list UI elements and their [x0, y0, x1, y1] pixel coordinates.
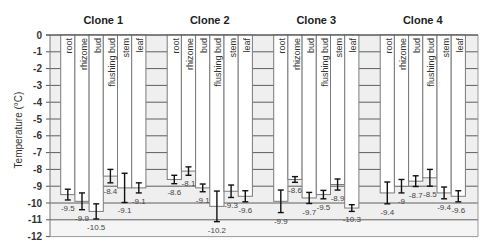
- value-label: -8.1: [182, 179, 196, 188]
- value-label: -8.4: [104, 187, 118, 196]
- category-label: root: [384, 38, 394, 54]
- y-tick-label: -5: [33, 114, 42, 125]
- value-label: -9.4: [437, 203, 451, 212]
- value-label: -9.6: [238, 206, 252, 215]
- clone-title: Clone 1: [83, 14, 123, 26]
- category-label: rhizome: [79, 38, 89, 70]
- y-tick-label: -9: [33, 181, 42, 192]
- bar-root: [380, 35, 394, 193]
- y-tick-label: -4: [33, 97, 42, 108]
- value-label: -9.3: [224, 201, 238, 210]
- value-label: -9.1: [118, 206, 132, 215]
- value-label: -10.5: [87, 223, 106, 232]
- clone-title: Clone 2: [190, 14, 230, 26]
- value-label: -9.9: [274, 217, 288, 226]
- category-label: leaf: [455, 38, 465, 53]
- y-tick-label: -12: [28, 231, 43, 242]
- y-tick-label: -2: [33, 63, 42, 74]
- y-axis-title: Temperature (°C): [13, 92, 24, 169]
- y-tick-label: -11: [28, 214, 42, 225]
- value-label: -8.9: [331, 194, 345, 203]
- bar-bud: [89, 35, 103, 211]
- category-label: rhizome: [398, 38, 408, 70]
- bar-leaf: [345, 35, 359, 208]
- category-label: bud: [306, 38, 316, 53]
- bar-root: [274, 35, 288, 201]
- bar-bud: [196, 35, 210, 188]
- clone-title: Clone 4: [403, 14, 444, 26]
- value-label: -10.2: [208, 226, 227, 235]
- value-label: -8.7: [409, 191, 423, 200]
- value-label: -9.7: [302, 208, 316, 217]
- value-label: -9.1: [132, 197, 146, 206]
- value-label: -9.9: [75, 214, 89, 223]
- value-label: -9.5: [61, 204, 75, 213]
- value-label: -9.6: [451, 206, 465, 215]
- y-tick-label: -1: [33, 46, 42, 57]
- category-label: bud: [199, 38, 209, 53]
- category-label: flushing bud: [107, 38, 117, 87]
- y-tick-label: -8: [33, 164, 42, 175]
- bar-chart: -9.5-9.9-10.5-8.4-9.1-9.1-8.6-8.1-9.1-10…: [0, 0, 497, 252]
- category-label: leaf: [242, 38, 252, 53]
- category-label: rhizome: [185, 38, 195, 70]
- bar-root: [61, 35, 75, 195]
- bar-leaf: [132, 35, 146, 188]
- value-label: -8.6: [167, 188, 181, 197]
- category-label: root: [171, 38, 181, 54]
- category-label: flushing bud: [320, 38, 330, 87]
- clone-titles: Clone 1Clone 2Clone 3Clone 4: [83, 14, 443, 26]
- bar-root: [167, 35, 181, 179]
- y-tick-label: -10: [28, 198, 43, 209]
- category-label: root: [64, 38, 74, 54]
- category-label: bud: [93, 38, 103, 53]
- category-label: leaf: [348, 38, 358, 53]
- category-label: rhizome: [292, 38, 302, 70]
- value-label: -9.1: [196, 196, 210, 205]
- bar-leaf: [238, 35, 252, 196]
- value-label: -9: [398, 197, 406, 206]
- category-label: flushing bud: [426, 38, 436, 87]
- bar-leaf: [451, 35, 465, 196]
- category-label: root: [277, 38, 287, 54]
- category-label: stem: [228, 38, 238, 58]
- category-label: leaf: [135, 38, 145, 53]
- bar-stem: [437, 35, 451, 193]
- bar-bud: [302, 35, 316, 198]
- value-label: -9.4: [380, 208, 394, 217]
- y-tick-label: -7: [33, 147, 42, 158]
- value-label: -10.3: [343, 215, 362, 224]
- y-tick-label: -6: [33, 130, 42, 141]
- category-label: flushing bud: [213, 38, 223, 87]
- clone-title: Clone 3: [296, 14, 336, 26]
- value-label: -8.5: [423, 190, 437, 199]
- category-label: stem: [441, 38, 451, 58]
- plot-area-lower-band: [50, 220, 478, 237]
- value-label: -8.6: [288, 186, 302, 195]
- y-tick-label: -3: [33, 80, 42, 91]
- value-label: -9.5: [317, 203, 331, 212]
- category-label: stem: [334, 38, 344, 58]
- category-label: stem: [121, 38, 131, 58]
- bar-bud: [409, 35, 423, 181]
- y-tick-label: 0: [36, 30, 42, 41]
- category-label: bud: [412, 38, 422, 53]
